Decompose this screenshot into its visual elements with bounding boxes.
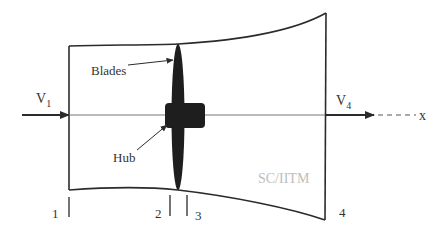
- blades-label: Blades: [91, 63, 126, 78]
- station-1-label: 1: [52, 206, 59, 221]
- station-4-label: 4: [339, 205, 346, 220]
- station-ticks: [69, 195, 187, 217]
- v1-main: V: [36, 91, 46, 106]
- station-3-label: 3: [195, 208, 202, 223]
- v4-label: V4: [336, 93, 351, 111]
- outlet-edge: [325, 13, 326, 220]
- x-axis-label: x: [419, 108, 426, 123]
- v4-subscript: 4: [346, 100, 351, 111]
- v4-main: V: [336, 93, 346, 108]
- hub-shape: [165, 103, 205, 128]
- station-2-label: 2: [155, 206, 162, 221]
- top-boundary-curve: [69, 13, 326, 46]
- blades-leader-arrow: [128, 60, 173, 65]
- v1-subscript: 1: [46, 98, 51, 109]
- stream-tube-diagram: Blades Hub V1 V4 x SC/IITM 1 2 3 4: [0, 0, 446, 237]
- hub-leader-arrow: [137, 125, 167, 150]
- watermark-label: SC/IITM: [258, 171, 310, 186]
- v1-label: V1: [36, 91, 51, 109]
- hub-label: Hub: [113, 150, 135, 165]
